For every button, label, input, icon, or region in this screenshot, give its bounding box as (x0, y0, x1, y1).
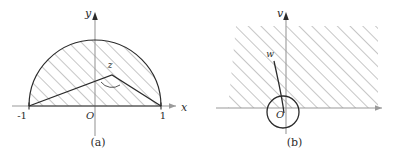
hatched-region-half-plane (221, 20, 386, 115)
figure-root: -1 1 O x y z (0, 0, 393, 161)
origin-label-b: O (276, 109, 284, 120)
point-label-w: w (266, 49, 274, 59)
x-axis-arrow (169, 103, 176, 109)
x-axis-label: x (181, 101, 188, 114)
u-axis-arrow (375, 105, 382, 111)
hatched-region-half-disk (20, 30, 175, 110)
y-axis-arrow (92, 12, 98, 20)
v-axis-arrow (283, 12, 289, 20)
caption-panel-a: (a) (0, 136, 196, 149)
point-label-z: z (107, 60, 113, 70)
tick-label-one: 1 (160, 110, 166, 121)
origin-label-a: O (86, 110, 94, 121)
tick-label-minus-one: -1 (17, 110, 27, 121)
caption-panel-b: (b) (196, 136, 393, 149)
v-axis-label: v (277, 7, 284, 20)
y-axis-label: y (84, 7, 92, 20)
